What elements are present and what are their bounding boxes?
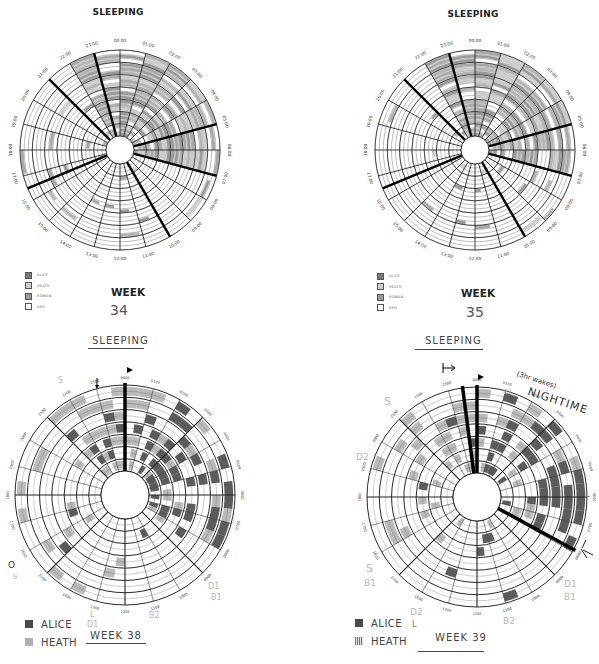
chart-legend: ALICE HEATH ROWAN ASH [25,270,51,312]
legend-swatch [355,637,363,645]
svg-text:09:00: 09:00 [546,221,558,233]
svg-text:19:00: 19:00 [10,115,18,129]
svg-text:0600: 0600 [592,492,596,502]
annotation-d2-left: D2 [356,452,369,462]
svg-text:1700: 1700 [361,522,367,533]
svg-text:0200: 0200 [179,390,190,398]
svg-text:00:00: 00:00 [469,38,482,43]
radial-chart-week39: 0000010002000300040005000600070008000900… [300,330,599,664]
annotation-b1-right: B1 [564,592,576,602]
svg-text:1500: 1500 [390,575,400,585]
annotation-d: D1 [87,620,98,629]
svg-text:1200: 1200 [472,612,482,616]
svg-text:0400: 0400 [222,432,230,443]
legend-item-rowan: ROWAN [377,292,403,303]
svg-text:1400: 1400 [62,592,73,600]
svg-text:16:00: 16:00 [21,198,32,211]
legend-item-alice: ALICE [25,270,51,281]
week-number: 35 [466,304,484,320]
svg-text:13:00: 13:00 [85,251,99,259]
legend-item-rowan: ROWAN [25,291,51,302]
svg-text:10:00: 10:00 [168,239,181,250]
svg-text:1600: 1600 [20,549,28,560]
svg-text:1000: 1000 [531,594,542,602]
svg-text:20:00: 20:00 [375,88,386,101]
legend-swatch [377,304,384,311]
chart-legend: ALICE HEATH [25,615,77,651]
svg-text:23:00: 23:00 [440,40,454,48]
legend-item-heath: HEATH [25,633,77,651]
svg-text:11:00: 11:00 [141,251,155,259]
svg-text:0700: 0700 [235,520,241,531]
week-number: 34 [110,302,128,318]
svg-text:1900: 1900 [9,459,15,470]
svg-text:07:00: 07:00 [221,171,229,185]
week-label: WEEK [461,287,495,299]
svg-text:2200: 2200 [414,391,425,399]
annotation-l-right: L [585,490,589,499]
svg-text:22:00: 22:00 [414,50,427,61]
svg-text:04:00: 04:00 [209,89,220,102]
chart-legend: ALICE HEATH ROWAN ASH [377,271,403,313]
svg-text:18:00: 18:00 [363,144,368,157]
svg-text:05:00: 05:00 [222,115,230,129]
svg-text:19:00: 19:00 [365,115,373,129]
legend-swatch [25,293,32,300]
svg-text:17:00: 17:00 [366,171,374,185]
svg-text:17:00: 17:00 [11,171,19,185]
svg-text:1900: 1900 [361,461,367,472]
svg-text:06:00: 06:00 [582,144,587,157]
svg-text:2200: 2200 [62,389,73,397]
chart-panel-week34: SLEEPING 00:0001:0002:0003:0004:0005:000… [0,0,300,330]
svg-text:07:00: 07:00 [576,171,584,185]
svg-text:0800: 0800 [574,550,582,561]
svg-text:01:00: 01:00 [142,40,156,48]
svg-text:1700: 1700 [9,520,15,531]
svg-text:0100: 0100 [502,381,513,387]
annotation-b2-bottom: B2 [503,616,515,626]
svg-text:2000: 2000 [372,433,380,444]
legend-item-ash: ASH [25,302,51,313]
legend-swatch [25,282,32,289]
legend-swatch [355,619,363,627]
legend-swatch [25,638,33,646]
week-underline [86,643,146,644]
svg-text:0300: 0300 [203,408,213,418]
chart-panel-week39: SLEEPING 0000010002000300040005000600070… [300,330,599,664]
svg-text:08:00: 08:00 [209,197,220,210]
svg-text:1600: 1600 [372,551,380,562]
chart-panel-week38: SLEEPING 0000010002000300040005000600070… [0,330,300,664]
annotation-s-left: S [13,573,17,581]
week-label: WEEK [111,286,145,298]
svg-text:0900: 0900 [203,573,213,583]
chart-panel-week35: SLEEPING 00:0001:0002:0003:0004:0005:000… [300,0,599,330]
svg-text:0000: 0000 [120,376,130,380]
svg-text:23:00: 23:00 [85,40,99,48]
annotation-d1-right: D1 [564,579,577,589]
svg-text:18:00: 18:00 [8,144,13,157]
svg-text:20:00: 20:00 [20,88,31,101]
legend-swatch [25,272,32,279]
annotation-b1-top: B1 [503,388,512,396]
svg-text:09:00: 09:00 [191,221,203,233]
legend-swatch [377,294,384,301]
svg-text:06:00: 06:00 [227,144,232,157]
svg-text:0700: 0700 [587,522,593,533]
svg-text:15:00: 15:00 [392,221,404,233]
svg-text:10:00: 10:00 [523,239,536,250]
svg-text:2100: 2100 [38,407,48,417]
svg-text:1500: 1500 [38,573,48,583]
svg-text:0300: 0300 [555,410,565,420]
svg-text:08:00: 08:00 [564,197,575,210]
svg-text:1800: 1800 [6,490,10,500]
annotation-b1: B1 [211,593,222,602]
svg-text:02:00: 02:00 [523,50,536,61]
legend-item-heath: HEATH [25,281,51,292]
annotation-l: L [90,610,94,619]
legend-item-alice: ALICE [25,615,77,633]
legend-swatch [25,303,32,310]
legend-swatch [377,283,384,290]
radial-chart-week35: 00:0001:0002:0003:0004:0005:0006:0007:00… [300,0,599,330]
svg-text:14:00: 14:00 [59,239,72,250]
svg-text:13:00: 13:00 [440,251,454,259]
